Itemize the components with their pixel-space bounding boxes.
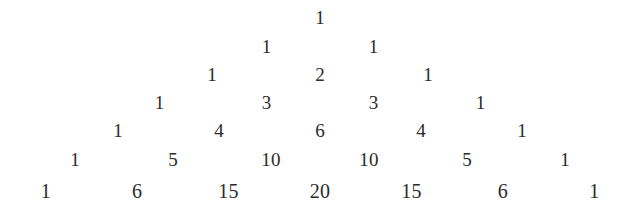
- triangle-cell: 1: [26, 150, 124, 169]
- triangle-cell: 1: [68, 121, 169, 140]
- triangle-cell: 2: [266, 65, 374, 84]
- triangle-cell: 3: [213, 93, 320, 112]
- triangle-cell: 4: [169, 121, 270, 140]
- triangle-cell: 15: [366, 182, 457, 201]
- triangle-cell: 1: [0, 182, 91, 201]
- triangle-cell: 10: [222, 150, 320, 169]
- triangle-cell: 1: [472, 121, 573, 140]
- triangle-cell: 6: [457, 182, 548, 201]
- triangle-cell: 5: [124, 150, 222, 169]
- triangle-cell: 6: [270, 121, 371, 140]
- triangle-cell: 1: [427, 93, 534, 112]
- triangle-row: 1 2 1: [0, 65, 640, 84]
- triangle-cell: 1: [213, 37, 320, 56]
- triangle-cell: 15: [183, 182, 274, 201]
- triangle-row: 1: [0, 8, 640, 27]
- triangle-cell: 1: [158, 65, 266, 84]
- triangle-cell: 1: [267, 8, 374, 27]
- pascals-triangle-figure: 1 1 1 1 2 1 1 3 3 1 1 4 6 4 1 1 5 10 10 …: [0, 0, 640, 219]
- triangle-cell: 4: [371, 121, 472, 140]
- triangle-cell: 1: [374, 65, 482, 84]
- triangle-row: 1 3 3 1: [0, 93, 640, 112]
- triangle-cell: 10: [320, 150, 418, 169]
- triangle-cell: 20: [274, 182, 365, 201]
- triangle-cell: 5: [418, 150, 516, 169]
- triangle-row: 1 6 15 20 15 6 1: [0, 182, 640, 201]
- triangle-cell: 6: [91, 182, 182, 201]
- triangle-row: 1 5 10 10 5 1: [0, 150, 640, 169]
- triangle-cell: 3: [320, 93, 427, 112]
- triangle-row: 1 4 6 4 1: [0, 121, 640, 140]
- triangle-cell: 1: [549, 182, 640, 201]
- triangle-row: 1 1: [0, 37, 640, 56]
- triangle-cell: 1: [106, 93, 213, 112]
- triangle-cell: 1: [320, 37, 427, 56]
- triangle-cell: 1: [516, 150, 614, 169]
